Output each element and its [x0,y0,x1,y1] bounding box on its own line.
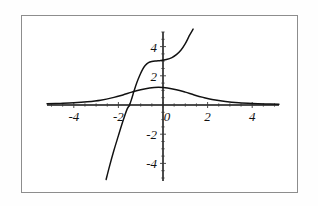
x-tick-label-neg4: -4 [68,109,79,124]
plot-canvas: -4-2024-4-224 [0,0,318,206]
x-tick-label-0: 0 [164,109,171,124]
x-tick-label-2: 2 [204,109,211,124]
figure-root: -4-2024-4-224 [0,0,318,206]
y-tick-label-2: 2 [151,69,158,84]
y-tick-label-4: 4 [151,40,158,55]
y-tick-label-neg2: -2 [146,127,157,142]
x-tick-label-4: 4 [249,109,256,124]
y-tick-label-neg4: -4 [146,156,157,171]
x-tick-label-neg2: -2 [113,109,124,124]
tick-marks-group [52,32,275,178]
